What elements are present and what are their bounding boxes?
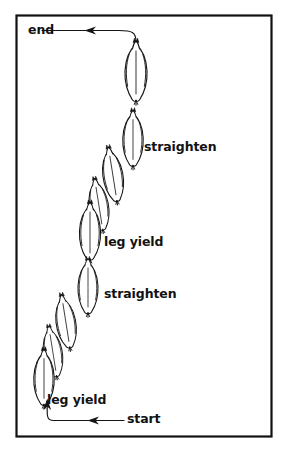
leg-yield-upper-label: leg yield: [104, 236, 163, 249]
end-label: end: [28, 24, 54, 37]
leg-yield-diagram: end straighten leg yield straighten leg …: [0, 0, 289, 453]
start-label: start: [127, 413, 161, 426]
diagram-canvas: [0, 0, 289, 453]
straighten-upper-label: straighten: [144, 141, 217, 154]
straighten-lower-label: straighten: [104, 288, 177, 301]
leg-yield-lower-label: leg yield: [47, 394, 106, 407]
